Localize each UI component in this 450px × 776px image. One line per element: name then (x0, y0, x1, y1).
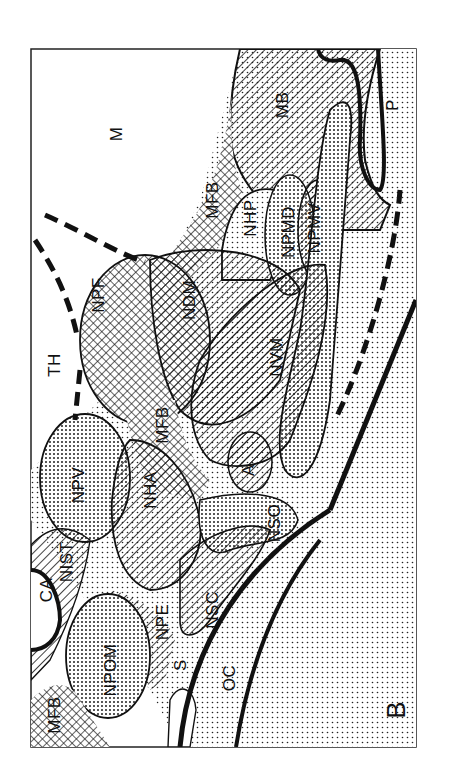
label-NPMV: NPMV (305, 202, 324, 253)
label-NPV: NPV (69, 467, 88, 504)
label-NHP: NHP (241, 199, 260, 236)
label-NSO: NSO (265, 504, 284, 542)
label-NSC: NSC (203, 591, 222, 628)
label-MB: MB (273, 92, 292, 119)
label-NDM: NDM (180, 280, 199, 320)
label-M: M (107, 127, 126, 142)
label-NVM: NVM (267, 337, 286, 376)
hypothalamus-diagram: M P MB MFB NHP NPMD NPMV TH NPF NDM NVM … (0, 0, 450, 776)
label-MFB-top: MFB (203, 181, 222, 218)
label-NPMD: NPMD (279, 206, 298, 258)
label-TH: TH (45, 353, 64, 377)
label-CA: CA (37, 578, 56, 603)
label-MFB-mid: MFB (153, 406, 172, 443)
label-NPE: NPE (153, 604, 172, 640)
label-S: S (171, 659, 190, 671)
label-NPF: NPF (89, 277, 108, 313)
label-P: P (383, 99, 402, 111)
label-A: A (239, 464, 258, 476)
label-NPOM: NPOM (101, 644, 120, 697)
region-A (228, 432, 272, 492)
label-NHA: NHA (141, 471, 160, 509)
label-OC: OC (220, 665, 239, 692)
label-MFB-bottom: MFB (45, 696, 64, 733)
label-NIST: NIST (57, 542, 76, 583)
panel-letter: B (381, 701, 411, 718)
